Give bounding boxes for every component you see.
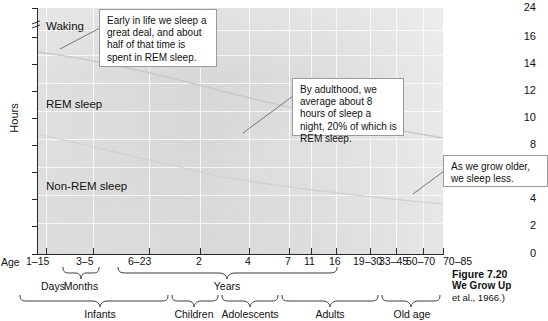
callout-older-age: As we grow older, we sleep less. (443, 155, 548, 187)
category-label-children: Children (169, 309, 219, 320)
figure-caption-title: Figure 7.20 (452, 268, 538, 280)
category-label-years: Years (202, 281, 252, 292)
figure-caption-subtitle: We Grow Up (452, 280, 538, 292)
callout-adulthood: By adulthood, we average about 8 hours o… (292, 78, 404, 136)
category-label-adolescents: Adolescents (218, 309, 282, 320)
figure-caption: Figure 7.20 We Grow Up et al., 1966.) (452, 268, 538, 303)
category-label-infants: Infants (75, 309, 125, 320)
category-label-months: Months (56, 281, 106, 292)
category-label-adults: Adults (305, 309, 355, 320)
callout-early-life: Early in life we sleep a great deal, and… (99, 9, 217, 67)
category-label-old-age: Old age (387, 309, 437, 320)
figure-caption-source: et al., 1966.) (452, 292, 538, 303)
